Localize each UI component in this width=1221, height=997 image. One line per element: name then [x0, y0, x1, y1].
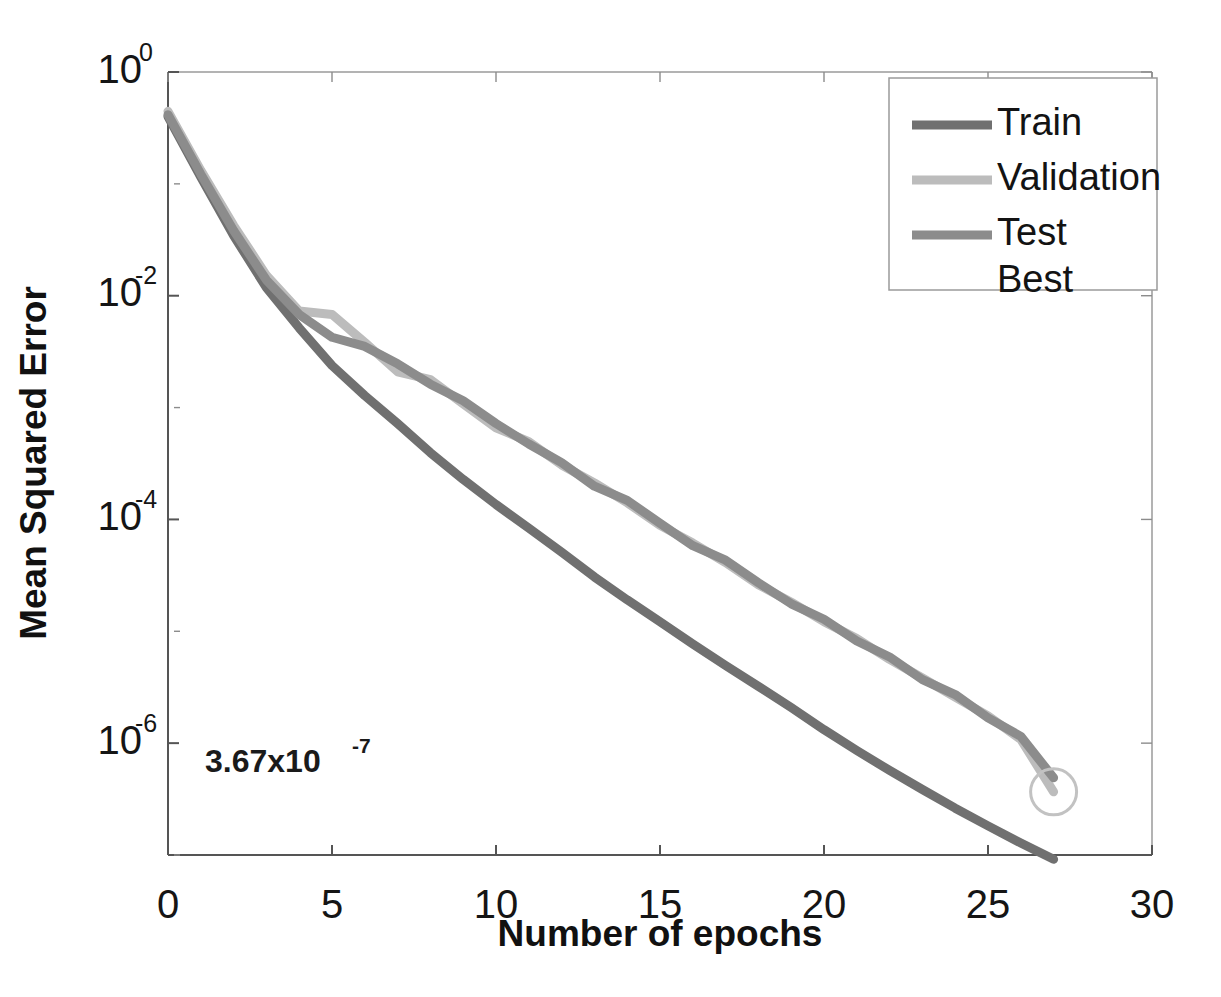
y-tick-exponent: -4: [135, 485, 157, 513]
x-tick-label: 5: [321, 882, 343, 926]
chart-figure: 051015202530 10010-210-410-6 Number of e…: [0, 0, 1221, 997]
legend-label-train: Train: [997, 101, 1082, 143]
performance-plot-svg: 051015202530 10010-210-410-6 Number of e…: [0, 0, 1221, 997]
x-tick-label: 0: [157, 882, 179, 926]
y-tick-label-group: 10-6: [98, 709, 158, 762]
y-tick-label-group: 10-2: [98, 261, 158, 314]
y-tick-exponent: -6: [135, 709, 157, 737]
legend-label-best: Best: [997, 258, 1073, 300]
y-tick-exponent: 0: [139, 38, 153, 66]
legend-label-test: Test: [997, 211, 1067, 253]
y-tick-label-group: 100: [98, 38, 153, 91]
legend[interactable]: TrainValidationTestBest: [889, 78, 1161, 300]
y-tick-label-group: 10-4: [98, 485, 158, 538]
annotation-mantissa: 3.67x10: [205, 743, 321, 779]
x-axis-title: Number of epochs: [498, 913, 823, 954]
y-tick-mantissa: 10: [98, 47, 143, 91]
y-axis-tick-labels: 10010-210-410-6: [98, 38, 158, 762]
y-axis-title: Mean Squared Error: [13, 286, 54, 640]
y-tick-exponent: -2: [135, 261, 157, 289]
x-tick-label: 30: [1130, 882, 1175, 926]
annotation-exponent: -7: [352, 734, 371, 757]
best-value-annotation: 3.67x10 -7: [205, 734, 371, 779]
legend-label-validation: Validation: [997, 156, 1161, 198]
x-tick-label: 25: [966, 882, 1011, 926]
legend-item-best[interactable]: Best: [997, 258, 1073, 300]
